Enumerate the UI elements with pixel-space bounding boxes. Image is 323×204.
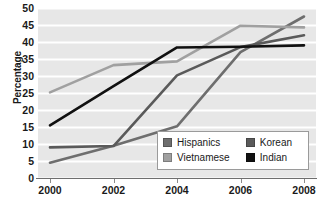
- x-axis-tick-mark: [177, 179, 178, 183]
- legend-label-hispanics: Hispanics: [177, 137, 220, 148]
- legend-swatch-korean-icon: [246, 138, 255, 147]
- legend-swatch-hispanics-icon: [163, 138, 172, 147]
- legend-item-indian[interactable]: Indian: [246, 152, 303, 163]
- legend-swatch-indian-icon: [246, 153, 255, 162]
- legend: Hispanics Korean Vietnamese Indian: [157, 131, 309, 170]
- y-axis-tick-label: 40: [22, 36, 34, 48]
- x-axis-tick-mark: [114, 179, 115, 183]
- legend-item-korean[interactable]: Korean: [246, 137, 303, 148]
- y-axis-tick-label: 35: [22, 53, 34, 65]
- legend-label-korean: Korean: [260, 137, 292, 148]
- x-axis-tick-label: 2004: [165, 184, 188, 196]
- line-chart: Percentage 05101520253035404550 20002002…: [0, 0, 323, 204]
- y-axis-tick-label: 20: [22, 104, 34, 116]
- y-axis-tick-labels: 05101520253035404550: [12, 8, 34, 178]
- x-axis-tick-mark: [241, 179, 242, 183]
- x-axis-tick-label: 2006: [229, 184, 252, 196]
- x-axis-tick-mark: [304, 179, 305, 183]
- legend-row: Hispanics Korean: [163, 135, 303, 150]
- x-axis-tick-labels: 20002002200420062008: [38, 184, 316, 200]
- x-axis-tick-label: 2000: [38, 184, 61, 196]
- y-axis-tick-label: 10: [22, 138, 34, 150]
- y-axis-tick-label: 25: [22, 87, 34, 99]
- y-axis-tick-label: 45: [22, 19, 34, 31]
- x-axis-tick-label: 2002: [102, 184, 125, 196]
- y-axis-tick-label: 0: [28, 172, 34, 184]
- y-axis-tick-label: 15: [22, 121, 34, 133]
- legend-item-hispanics[interactable]: Hispanics: [163, 137, 246, 148]
- legend-item-vietnamese[interactable]: Vietnamese: [163, 152, 246, 163]
- x-axis-tick-label: 2008: [292, 184, 315, 196]
- legend-swatch-vietnamese-icon: [163, 153, 172, 162]
- y-axis-tick-label: 30: [22, 70, 34, 82]
- legend-label-vietnamese: Vietnamese: [177, 152, 230, 163]
- x-axis-tick-mark: [50, 179, 51, 183]
- y-axis-tick-label: 5: [28, 155, 34, 167]
- y-axis-tick-label: 50: [22, 2, 34, 14]
- legend-row: Vietnamese Indian: [163, 150, 303, 165]
- series-line-indian: [50, 45, 304, 125]
- legend-label-indian: Indian: [260, 152, 287, 163]
